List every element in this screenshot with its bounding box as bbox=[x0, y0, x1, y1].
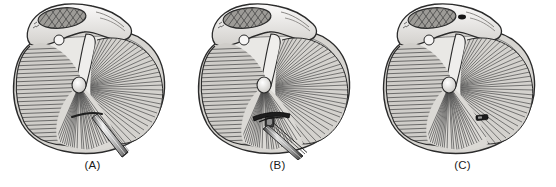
panel-b: (B) bbox=[185, 0, 370, 187]
panel-a: (A) bbox=[0, 0, 185, 187]
panel-a-illustration bbox=[0, 0, 185, 160]
panel-b-caption: (B) bbox=[185, 158, 370, 172]
figure-root: (A) bbox=[0, 0, 556, 187]
implanted-anchor bbox=[476, 114, 488, 120]
panel-b-illustration bbox=[185, 0, 370, 160]
panel-c-illustration bbox=[370, 0, 555, 160]
panel-a-caption: (A) bbox=[0, 158, 185, 172]
central-hub-tubercle bbox=[257, 77, 271, 93]
panel-c: (C) bbox=[370, 0, 555, 187]
central-hub-tubercle bbox=[442, 77, 456, 93]
panel-c-caption: (C) bbox=[370, 158, 555, 172]
central-hub-tubercle bbox=[72, 77, 86, 93]
